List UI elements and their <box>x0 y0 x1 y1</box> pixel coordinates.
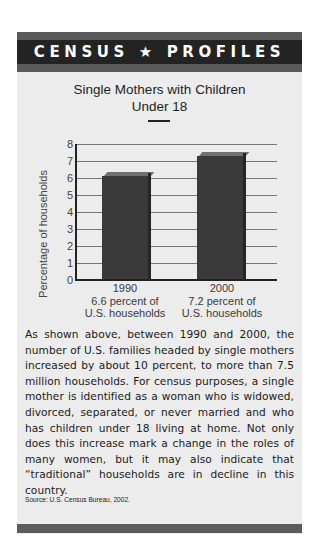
gridline-7 <box>75 161 277 162</box>
y-tick-3: 3 <box>59 223 73 235</box>
bar-2000-side <box>243 153 246 280</box>
bar-1990-side <box>148 173 151 280</box>
gridline-8 <box>75 144 277 145</box>
category-year: 2000 <box>167 282 277 295</box>
y-axis-label: Percentage of households <box>37 164 49 304</box>
y-tick-2: 2 <box>59 240 73 252</box>
census-profile-panel: CENSUS ★ PROFILES Single Mothers with Ch… <box>17 32 302 534</box>
y-tick-6: 6 <box>59 172 73 184</box>
bar-1990 <box>102 176 148 280</box>
y-tick-7: 7 <box>59 155 73 167</box>
category-percent: 7.2 percent of <box>167 295 277 308</box>
category-unit: U.S. households <box>167 307 277 320</box>
x-category-1990: 1990 6.6 percent of U.S. households <box>70 282 180 320</box>
y-tick-4: 4 <box>59 206 73 218</box>
category-year: 1990 <box>70 282 180 295</box>
body-paragraph: As shown above, between 1990 and 2000, t… <box>25 327 294 499</box>
bar-2000 <box>197 156 243 280</box>
y-tick-5: 5 <box>59 189 73 201</box>
y-axis-line <box>75 144 77 281</box>
y-tick-8: 8 <box>59 138 73 150</box>
y-tick-1: 1 <box>59 257 73 269</box>
source-note: Source: U.S. Census Bureau, 2002. <box>25 495 130 504</box>
x-category-2000: 2000 7.2 percent of U.S. households <box>167 282 277 320</box>
footer-band <box>17 524 302 533</box>
category-percent: 6.6 percent of <box>70 295 180 308</box>
category-unit: U.S. households <box>70 307 180 320</box>
bar-chart: Percentage of households 0 1 2 3 4 5 6 7… <box>17 32 302 332</box>
x-axis-line <box>75 279 277 281</box>
